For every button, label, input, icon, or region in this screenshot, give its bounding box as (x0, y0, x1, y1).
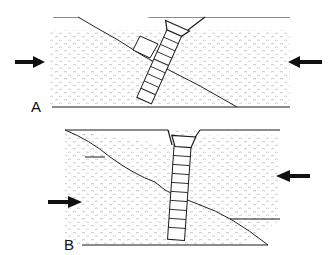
panel-b (48, 130, 310, 245)
panel-label-b: B (64, 237, 74, 252)
fracture-screw-diagram (0, 0, 332, 255)
panel-label-a: A (31, 99, 41, 114)
panel-a (0, 0, 332, 107)
